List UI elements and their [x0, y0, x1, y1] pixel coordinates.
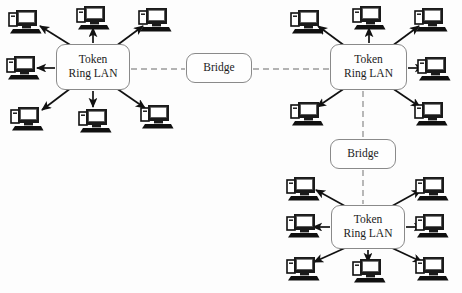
computer-icon[interactable] — [415, 255, 449, 282]
computer-icon[interactable] — [415, 212, 449, 239]
computer-icon[interactable] — [140, 103, 174, 130]
computer-icon[interactable] — [76, 4, 110, 31]
lan-node-label: TokenRing LAN — [332, 213, 404, 240]
bridge-node[interactable]: Bridge — [330, 139, 396, 169]
computer-icon[interactable] — [10, 105, 44, 132]
bridge-node-label: Bridge — [331, 147, 395, 161]
computer-icon[interactable] — [414, 6, 448, 33]
token-ring-lan-node[interactable]: TokenRing LAN — [330, 44, 407, 90]
bridge-node-label: Bridge — [187, 61, 251, 75]
computer-icon[interactable] — [415, 175, 449, 202]
computer-icon[interactable] — [286, 255, 320, 282]
token-ring-lan-node[interactable]: TokenRing LAN — [56, 44, 130, 90]
lan-node-label-line2: Ring LAN — [333, 67, 404, 81]
computer-icon[interactable] — [417, 55, 451, 82]
computer-icon[interactable] — [6, 54, 40, 81]
computer-icon[interactable] — [414, 100, 448, 127]
lan-node-label: TokenRing LAN — [331, 53, 406, 80]
lan-node-label-line2: Ring LAN — [59, 67, 127, 81]
computer-icon[interactable] — [286, 175, 320, 202]
lan-node-label-line2: Ring LAN — [334, 227, 402, 241]
computer-icon[interactable] — [352, 257, 386, 284]
computer-icon[interactable] — [290, 100, 324, 127]
station-link-arrow — [316, 190, 345, 206]
computer-icon[interactable] — [352, 4, 386, 31]
bridge-node[interactable]: Bridge — [186, 53, 252, 83]
station-link-arrow — [40, 26, 72, 46]
computer-icon[interactable] — [8, 8, 42, 35]
bridge-links — [131, 69, 363, 204]
token-ring-lan-node[interactable]: TokenRing LAN — [331, 205, 405, 249]
station-link-arrow — [42, 88, 71, 110]
computer-icon[interactable] — [290, 8, 324, 35]
computer-icon[interactable] — [138, 6, 172, 33]
computer-icon[interactable] — [286, 212, 320, 239]
lan-node-label: TokenRing LAN — [57, 53, 129, 80]
network-diagram: TokenRing LANBridgeTokenRing LANBridgeTo… — [0, 0, 462, 293]
computer-icon[interactable] — [78, 107, 112, 134]
